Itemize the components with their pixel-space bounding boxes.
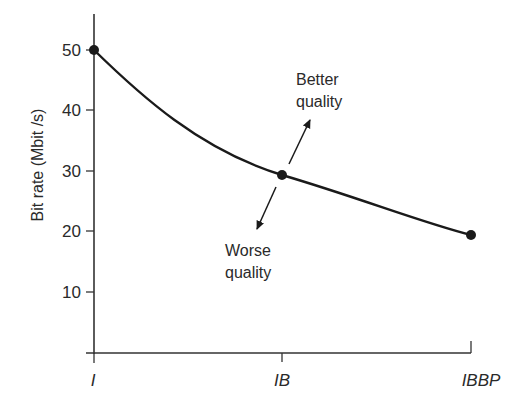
bitrate-chart: 50 40 30 20 10 Bit rate (Mbit /s) I IB I… xyxy=(0,0,520,409)
data-point-ib xyxy=(277,170,287,180)
y-axis-label: Bit rate (Mbit /s) xyxy=(29,109,46,222)
better-quality-label-line1: Better xyxy=(296,71,339,88)
y-tick-label-30: 30 xyxy=(62,162,81,181)
x-ticks xyxy=(94,341,471,363)
x-category-label-ibbp: IBBP xyxy=(462,371,501,390)
y-tick-label-50: 50 xyxy=(62,41,81,60)
worse-quality-arrow-icon xyxy=(257,187,276,229)
x-category-label-i: I xyxy=(91,371,96,390)
worse-quality-label-line2: quality xyxy=(225,264,271,281)
y-tick-label-40: 40 xyxy=(62,101,81,120)
y-tick-label-20: 20 xyxy=(62,222,81,241)
data-point-ibbp xyxy=(466,230,476,240)
y-tick-label-10: 10 xyxy=(62,283,81,302)
bitrate-curve xyxy=(94,50,471,235)
better-quality-arrow-icon xyxy=(289,120,310,164)
data-point-i xyxy=(89,45,99,55)
worse-quality-label-line1: Worse xyxy=(225,242,271,259)
y-ticks xyxy=(86,50,94,292)
x-category-label-ib: IB xyxy=(274,371,290,390)
better-quality-label-line2: quality xyxy=(296,93,342,110)
